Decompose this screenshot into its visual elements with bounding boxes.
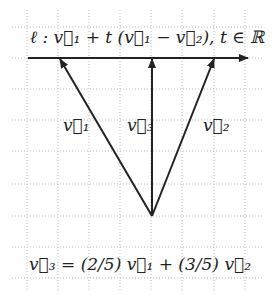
label-v1: v⃗₁ (63, 115, 90, 135)
label-v2: v⃗₂ (203, 115, 230, 135)
relation-equation: v⃗₃ = (2/5) v⃗₁ + (3/5) v⃗₂ (29, 254, 251, 274)
vector-v2 (152, 59, 214, 216)
vector-v1 (60, 59, 152, 216)
label-v3: v⃗₃ (127, 115, 154, 135)
grid (12, 10, 262, 292)
line-equation: ℓ : v⃗₁ + t (v⃗₁ − v⃗₂), t ∈ ℝ (30, 27, 264, 48)
